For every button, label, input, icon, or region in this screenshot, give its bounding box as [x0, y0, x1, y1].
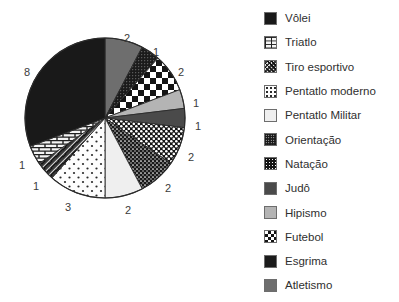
pie-slice-value-label: 2 — [125, 205, 131, 216]
legend-item-label: Atletismo — [285, 279, 332, 291]
legend-item-label: Judô — [285, 182, 310, 194]
legend-item[interactable]: Atletismo — [264, 273, 399, 297]
legend-item[interactable]: Vôlei — [264, 6, 399, 30]
legend-swatch-atletismo — [264, 279, 277, 292]
legend-item-label: Pentatlo Militar — [285, 109, 361, 121]
legend-swatch-judo — [264, 182, 277, 195]
legend-item[interactable]: Hipismo — [264, 200, 399, 224]
legend-swatch-triatlo — [264, 36, 277, 49]
legend-item-label: Vôlei — [285, 12, 311, 24]
legend-item-label: Tiro esportivo — [285, 61, 354, 73]
legend-swatch-esgrima — [264, 255, 277, 268]
legend-item[interactable]: Orientação — [264, 127, 399, 151]
legend-swatch-natacao — [264, 157, 277, 170]
legend-swatch-orientacao — [264, 133, 277, 146]
pie-slice-value-label: 3 — [65, 202, 71, 213]
legend-swatch-hipismo — [264, 206, 277, 219]
pie-slice-value-label: 8 — [24, 67, 30, 78]
pie-slice-value-label: 2 — [188, 152, 194, 163]
legend-item[interactable]: Futebol — [264, 225, 399, 249]
legend-swatch-volei — [264, 12, 277, 25]
legend-swatch-pentatlo-moderno — [264, 85, 277, 98]
pie-slice-value-label: 1 — [153, 47, 159, 58]
pie-svg — [0, 0, 260, 302]
legend-item[interactable]: Tiro esportivo — [264, 55, 399, 79]
pie-slice-value-label: 1 — [195, 121, 201, 132]
chart-legend: VôleiTriatloTiro esportivoPentatlo moder… — [264, 6, 399, 298]
legend-swatch-tiro-esportivo — [264, 60, 277, 73]
pie-slice-value-label: 1 — [193, 98, 199, 109]
pie-slice-value-label: 2 — [124, 33, 130, 44]
pie-slice-value-label: 1 — [33, 181, 39, 192]
pie-slice-value-label: 1 — [19, 160, 25, 171]
pie-slices — [25, 38, 185, 198]
legend-item[interactable]: Judô — [264, 176, 399, 200]
legend-item-label: Hipismo — [285, 207, 327, 219]
legend-item-label: Pentatlo moderno — [285, 85, 376, 97]
legend-item[interactable]: Natação — [264, 152, 399, 176]
pie-slice-value-label: 2 — [178, 67, 184, 78]
legend-item-label: Futebol — [285, 231, 323, 243]
legend-swatch-futebol — [264, 230, 277, 243]
legend-item[interactable]: Esgrima — [264, 249, 399, 273]
pie-chart-figure: 212112223118 VôleiTriatloTiro esportivoP… — [0, 0, 399, 302]
pie-slice-value-label: 2 — [165, 183, 171, 194]
legend-item-label: Triatlo — [285, 36, 317, 48]
legend-item[interactable]: Pentatlo Militar — [264, 103, 399, 127]
legend-swatch-pentatlo-militar — [264, 109, 277, 122]
legend-item-label: Orientação — [285, 134, 341, 146]
legend-item-label: Esgrima — [285, 255, 327, 267]
pie-plot-area: 212112223118 — [0, 0, 260, 302]
legend-item-label: Natação — [285, 158, 328, 170]
legend-item[interactable]: Pentatlo moderno — [264, 79, 399, 103]
legend-item[interactable]: Triatlo — [264, 30, 399, 54]
